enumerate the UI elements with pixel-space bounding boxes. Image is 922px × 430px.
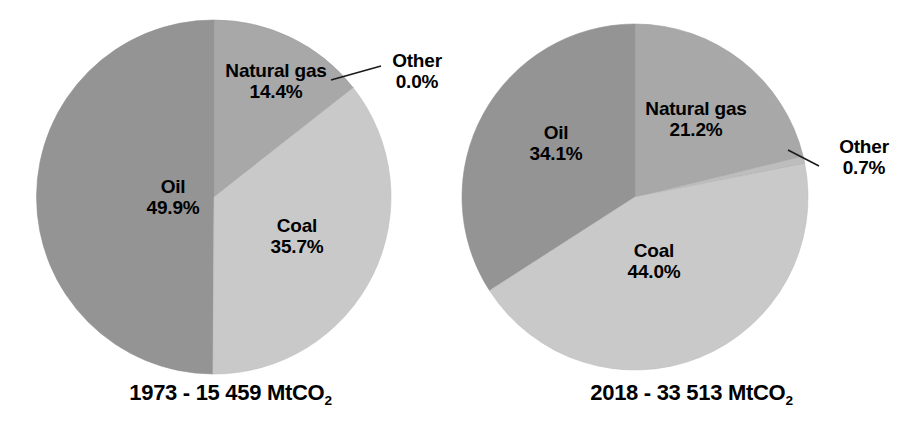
slice-label-other-pct: 0.0% [374,71,460,92]
chart-caption-2018: 2018 - 33 513 MtCO2 [461,380,922,406]
pie-chart-figure: Oil 49.9% Natural gas 14.4% Coal 35.7% O… [0,0,922,430]
chart-caption-1973-subscript: 2 [324,393,331,408]
slice-label-oil: Oil 49.9% [118,176,228,219]
slice-label-oil-pct: 49.9% [118,197,228,218]
slice-label-oil-name: Oil [118,176,228,197]
slice-label-natural-gas-pct: 21.2% [627,119,765,140]
pie-slices-group-2018 [462,24,808,370]
slice-label-natural-gas-name: Natural gas [627,98,765,119]
chart-caption-1973-text: 1973 - 15 459 MtCO [129,380,324,405]
slice-label-oil: Oil 34.1% [501,122,611,165]
slice-label-oil-name: Oil [501,122,611,143]
slice-label-coal-pct: 35.7% [242,236,352,257]
slice-label-natural-gas-pct: 14.4% [207,81,345,102]
pie-chart-2018 [461,0,922,430]
slice-label-other-name: Other [821,136,907,157]
slice-label-natural-gas: Natural gas 14.4% [207,60,345,103]
slice-label-natural-gas-name: Natural gas [207,60,345,81]
slice-label-coal-name: Coal [242,215,352,236]
chart-caption-2018-text: 2018 - 33 513 MtCO [590,380,785,405]
slice-label-other: Other 0.7% [821,136,907,179]
chart-caption-2018-subscript: 2 [785,393,792,408]
chart-panel-2018: Oil 34.1% Natural gas 21.2% Coal 44.0% O… [461,0,922,430]
slice-label-coal: Coal 44.0% [599,240,709,283]
chart-caption-1973: 1973 - 15 459 MtCO2 [0,380,461,406]
slice-label-oil-pct: 34.1% [501,143,611,164]
slice-label-other-name: Other [374,50,460,71]
slice-label-other: Other 0.0% [374,50,460,93]
slice-label-coal: Coal 35.7% [242,215,352,258]
chart-panel-1973: Oil 49.9% Natural gas 14.4% Coal 35.7% O… [0,0,461,430]
slice-label-coal-pct: 44.0% [599,261,709,282]
slice-label-natural-gas: Natural gas 21.2% [627,98,765,141]
slice-label-other-pct: 0.7% [821,157,907,178]
slice-label-coal-name: Coal [599,240,709,261]
